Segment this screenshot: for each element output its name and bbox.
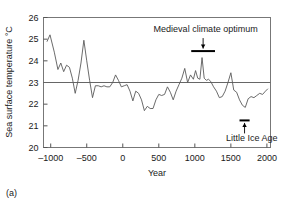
- x-tick-label: 2000: [257, 153, 277, 163]
- y-tick-label: 26: [28, 13, 38, 23]
- x-tick-label: –1000: [38, 153, 63, 163]
- y-tick-label: 21: [28, 121, 38, 131]
- medieval-climate-optimum-label: Medieval climate optimum: [154, 24, 258, 34]
- little-ice-age-label: Little Ice Age: [226, 133, 278, 143]
- x-tick-label: 1500: [221, 153, 241, 163]
- x-tick-label: –500: [77, 153, 97, 163]
- y-tick-label: 24: [28, 56, 38, 66]
- annotation-medieval-climate-optimum: Medieval climate optimum: [154, 24, 258, 51]
- x-tick-label: 0: [120, 153, 125, 163]
- y-tick-label: 22: [28, 99, 38, 109]
- x-axis-tick-labels: –1000–5000500100015002000: [38, 153, 277, 163]
- annotation-little-ice-age: Little Ice Age: [226, 120, 278, 143]
- little-ice-age-arrow-head: [242, 123, 246, 127]
- y-axis-tick-labels: 20212223242526: [28, 13, 38, 153]
- x-axis-title: Year: [148, 168, 166, 178]
- y-tick-label: 20: [28, 143, 38, 153]
- y-axis-title: Sea surface temperature °C: [4, 26, 14, 138]
- temperature-series-line: [47, 35, 268, 111]
- panel-label: (a): [6, 188, 17, 198]
- figure-panel-a: 20212223242526 –1000–5000500100015002000…: [0, 0, 285, 204]
- chart-annotations: Medieval climate optimumLittle Ice Age: [154, 24, 278, 143]
- x-axis-ticks: [51, 144, 267, 148]
- y-tick-label: 23: [28, 78, 38, 88]
- x-tick-label: 1000: [185, 153, 205, 163]
- medieval-climate-optimum-arrow-head: [201, 45, 205, 49]
- sea-surface-temperature-chart: 20212223242526 –1000–5000500100015002000…: [0, 0, 285, 204]
- y-tick-label: 25: [28, 34, 38, 44]
- x-tick-label: 500: [151, 153, 166, 163]
